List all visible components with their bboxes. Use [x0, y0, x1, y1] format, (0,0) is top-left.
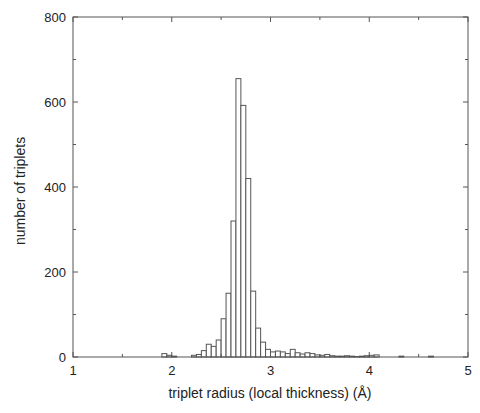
- histogram-bar: [226, 293, 231, 357]
- histogram-bar: [266, 349, 271, 357]
- x-axis-ticks: 12345: [69, 17, 471, 378]
- histogram-bar: [241, 105, 246, 357]
- histogram-bar: [310, 354, 315, 357]
- histogram-bar: [206, 344, 211, 357]
- histogram-bar: [216, 340, 221, 357]
- histogram-bar: [221, 319, 226, 357]
- histogram-bar: [236, 79, 241, 357]
- histogram-bar: [285, 354, 290, 357]
- histogram-bar: [275, 351, 280, 357]
- histogram-bar: [305, 353, 310, 357]
- x-tick-label: 4: [366, 363, 373, 378]
- x-tick-label: 2: [168, 363, 175, 378]
- histogram-bar: [256, 328, 261, 357]
- histogram-bar: [290, 349, 295, 357]
- histogram-bar: [211, 346, 216, 357]
- y-tick-label: 800: [44, 10, 66, 25]
- histogram-bar: [271, 352, 276, 357]
- y-tick-label: 600: [44, 95, 66, 110]
- histogram-bar: [162, 354, 167, 357]
- y-tick-label: 0: [59, 350, 66, 365]
- x-tick-label: 5: [464, 363, 471, 378]
- histogram-bars: [162, 79, 434, 357]
- x-axis-label: triplet radius (local thickness) (Å): [0, 385, 480, 401]
- histogram-bar: [201, 351, 206, 357]
- x-tick-label: 1: [69, 363, 76, 378]
- histogram-bar: [280, 352, 285, 357]
- histogram-bar: [261, 342, 266, 357]
- histogram-bar: [231, 221, 236, 357]
- y-tick-label: 200: [44, 265, 66, 280]
- histogram-bar: [246, 179, 251, 358]
- y-tick-label: 400: [44, 180, 66, 195]
- plot-frame: [73, 17, 468, 357]
- histogram-chart: 0200400600800 12345: [0, 0, 480, 413]
- histogram-bar: [251, 291, 256, 357]
- y-axis-label: number of triplets: [12, 137, 28, 245]
- histogram-bar: [295, 353, 300, 357]
- x-tick-label: 3: [267, 363, 274, 378]
